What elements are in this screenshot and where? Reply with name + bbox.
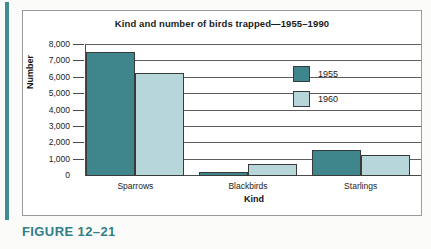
bar-sparrows-1960 xyxy=(135,73,184,176)
bar-starlings-1955 xyxy=(312,150,361,176)
chart-legend: 1955 1960 xyxy=(293,66,373,116)
x-axis-label-blackbirds: Blackbirds xyxy=(228,181,267,191)
chart-title: Kind and number of birds trapped—1955–19… xyxy=(23,18,421,29)
legend-swatch-icon-1960 xyxy=(293,91,310,107)
y-axis-tick-mark xyxy=(73,77,84,78)
legend-label-1960: 1960 xyxy=(318,94,338,104)
x-axis-label-starlings: Starlings xyxy=(344,181,377,191)
y-axis-tick-mark xyxy=(73,44,84,45)
bar-sparrows-1955 xyxy=(86,52,135,176)
x-axis-label-sparrows: Sparrows xyxy=(117,181,153,191)
y-axis-tick-mark xyxy=(73,142,84,143)
bar-starlings-1960 xyxy=(361,155,410,176)
page-left-rule xyxy=(5,2,9,220)
x-axis-title: Kind xyxy=(85,194,422,204)
y-axis-title: Number xyxy=(25,55,35,89)
y-axis-tick-mark xyxy=(73,110,84,111)
page-background: Kind and number of birds trapped—1955–19… xyxy=(0,0,431,249)
legend-swatch-icon-1955 xyxy=(293,66,310,82)
legend-label-1955: 1955 xyxy=(318,69,338,79)
y-axis-tick-mark xyxy=(73,60,84,61)
y-axis-tick-mark xyxy=(73,159,84,160)
y-axis-tick-mark xyxy=(73,93,84,94)
y-axis-tick-mark xyxy=(73,126,84,127)
bar-blackbirds-1955 xyxy=(199,172,248,176)
bar-blackbirds-1960 xyxy=(248,164,297,176)
figure-caption: FIGURE 12–21 xyxy=(22,224,116,239)
legend-item-1960: 1960 xyxy=(293,91,373,107)
legend-item-1955: 1955 xyxy=(293,66,373,82)
figure-frame: Kind and number of birds trapped—1955–19… xyxy=(22,10,422,216)
